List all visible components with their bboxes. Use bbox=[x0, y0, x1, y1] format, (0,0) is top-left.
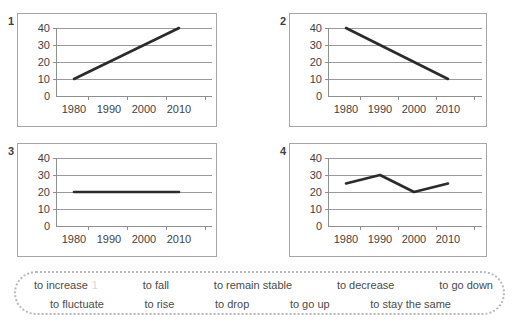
chart-number-4: 4 bbox=[272, 145, 286, 157]
svg-text:10: 10 bbox=[310, 73, 322, 85]
svg-text:2000: 2000 bbox=[132, 103, 156, 115]
svg-text:30: 30 bbox=[38, 39, 50, 51]
chart-frame-4: 40 30 20 10 0 1980 1990 2000 2010 bbox=[289, 143, 487, 257]
chart-frame-3: 40 30 20 10 0 1980 1990 2000 2010 bbox=[17, 143, 217, 257]
svg-text:0: 0 bbox=[316, 90, 322, 102]
svg-text:1980: 1980 bbox=[62, 103, 86, 115]
svg-text:0: 0 bbox=[44, 90, 50, 102]
word-bank-row-1: to increase 1 to fall to remain stable t… bbox=[16, 275, 503, 295]
svg-text:40: 40 bbox=[38, 22, 50, 34]
word-bank-item-to-fluctuate[interactable]: to fluctuate bbox=[50, 298, 104, 310]
chart-plot-3: 40 30 20 10 0 1980 1990 2000 2010 bbox=[18, 144, 216, 256]
chart-plot-2: 40 30 20 10 0 1980 1990 2000 2010 bbox=[290, 14, 486, 126]
svg-text:0: 0 bbox=[44, 220, 50, 232]
svg-text:40: 40 bbox=[310, 22, 322, 34]
svg-text:2010: 2010 bbox=[436, 233, 460, 245]
word-bank-ghost-mark: 1 bbox=[92, 279, 98, 291]
svg-text:1990: 1990 bbox=[368, 233, 392, 245]
svg-text:1990: 1990 bbox=[97, 233, 121, 245]
word-bank-item-to-decrease[interactable]: to decrease bbox=[337, 279, 394, 291]
chart-block-2: 2 bbox=[272, 13, 492, 127]
chart-frame-1: 40 30 20 10 0 1980 1990 2000 2010 bbox=[17, 13, 217, 127]
svg-text:10: 10 bbox=[38, 203, 50, 215]
word-bank-item-to-stay-the-same[interactable]: to stay the same bbox=[370, 298, 451, 310]
svg-text:40: 40 bbox=[38, 152, 50, 164]
word-bank-item-to-increase[interactable]: to increase bbox=[34, 279, 88, 291]
word-bank-item-wrap: to increase 1 bbox=[34, 279, 98, 291]
svg-text:30: 30 bbox=[310, 39, 322, 51]
svg-text:20: 20 bbox=[310, 56, 322, 68]
word-bank-item-to-fall[interactable]: to fall bbox=[143, 279, 169, 291]
chart-block-4: 4 bbox=[272, 143, 492, 257]
svg-text:40: 40 bbox=[310, 152, 322, 164]
svg-text:2010: 2010 bbox=[436, 103, 460, 115]
svg-text:1980: 1980 bbox=[334, 103, 358, 115]
svg-text:1980: 1980 bbox=[334, 233, 358, 245]
chart-number-3: 3 bbox=[0, 145, 14, 157]
word-bank-item-to-rise[interactable]: to rise bbox=[144, 298, 174, 310]
word-bank: to increase 1 to fall to remain stable t… bbox=[14, 271, 505, 315]
chart-number-2: 2 bbox=[272, 15, 286, 27]
word-bank-item-to-go-up[interactable]: to go up bbox=[290, 298, 330, 310]
svg-text:0: 0 bbox=[316, 220, 322, 232]
chart-block-3: 3 bbox=[0, 143, 220, 257]
chart-number-1: 1 bbox=[0, 15, 14, 27]
svg-text:2010: 2010 bbox=[167, 233, 191, 245]
svg-text:1980: 1980 bbox=[62, 233, 86, 245]
svg-text:30: 30 bbox=[310, 169, 322, 181]
chart-plot-1: 40 30 20 10 0 1980 1990 2000 2010 bbox=[18, 14, 216, 126]
svg-text:20: 20 bbox=[38, 56, 50, 68]
chart-frame-2: 40 30 20 10 0 1980 1990 2000 2010 bbox=[289, 13, 487, 127]
svg-text:2000: 2000 bbox=[402, 103, 426, 115]
word-bank-row-2: to fluctuate to rise to drop to go up to… bbox=[16, 294, 503, 314]
svg-text:30: 30 bbox=[38, 169, 50, 181]
svg-text:2010: 2010 bbox=[167, 103, 191, 115]
word-bank-item-to-go-down[interactable]: to go down bbox=[439, 279, 493, 291]
svg-text:20: 20 bbox=[38, 186, 50, 198]
svg-text:10: 10 bbox=[38, 73, 50, 85]
svg-text:20: 20 bbox=[310, 186, 322, 198]
word-bank-item-to-remain-stable[interactable]: to remain stable bbox=[214, 279, 292, 291]
svg-text:2000: 2000 bbox=[402, 233, 426, 245]
svg-text:10: 10 bbox=[310, 203, 322, 215]
worksheet: 1 bbox=[0, 0, 513, 321]
chart-plot-4: 40 30 20 10 0 1980 1990 2000 2010 bbox=[290, 144, 486, 256]
svg-text:2000: 2000 bbox=[132, 233, 156, 245]
svg-text:1990: 1990 bbox=[368, 103, 392, 115]
word-bank-item-to-drop[interactable]: to drop bbox=[215, 298, 249, 310]
svg-text:1990: 1990 bbox=[97, 103, 121, 115]
chart-block-1: 1 bbox=[0, 13, 220, 127]
